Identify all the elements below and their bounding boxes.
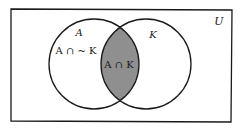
universe-label: U: [214, 15, 224, 28]
venn-diagram: U A K A ∩ ~ K A ∩ K: [0, 0, 242, 132]
set-a-label: A: [74, 27, 82, 38]
set-k-label: K: [148, 29, 157, 40]
region-a-not-k-label: A ∩ ~ K: [55, 45, 98, 56]
region-a-and-k-label: A ∩ K: [103, 59, 134, 70]
